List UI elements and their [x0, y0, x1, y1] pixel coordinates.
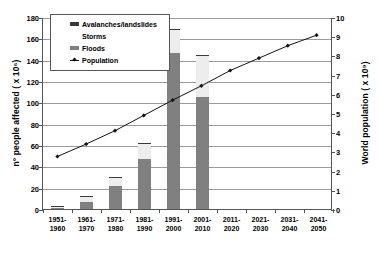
y-axis-right-tick-label: 5 [336, 110, 340, 119]
x-axis-tick-mark [43, 209, 44, 213]
x-axis-tick-label: 1991-2000 [165, 216, 183, 233]
x-axis-tick-label-line: 1961- [78, 216, 96, 225]
population-marker [84, 142, 88, 146]
x-axis-tick-label-line: 2050 [310, 225, 328, 234]
y-axis-left-tick-label: 120 [26, 78, 39, 87]
y-axis-left-tick-label: 80 [31, 120, 39, 129]
y-axis-left-tick-label: 0 [35, 206, 39, 215]
x-axis-tick-label-line: 2000 [165, 225, 183, 234]
y-axis-right-tick-mark [331, 56, 335, 57]
chart-container: n° people affected ( x 10⁶) World popula… [0, 0, 378, 253]
y-axis-right-title: World population ( x 10⁹) [360, 33, 370, 193]
x-axis-tick-label: 1971-1980 [107, 216, 125, 233]
x-axis-tick-mark [130, 209, 131, 213]
x-axis-tick-label: 2031-2040 [281, 216, 299, 233]
x-axis-tick-label-line: 1960 [49, 225, 67, 234]
x-axis-tick-label: 1981-1990 [136, 216, 154, 233]
x-axis-tick-mark [101, 209, 102, 213]
legend-swatch-icon [70, 22, 79, 26]
y-axis-left-tick-label: 100 [26, 99, 39, 108]
x-axis-tick-label-line: 2040 [281, 225, 299, 234]
x-axis-tick-label-line: 2001- [194, 216, 212, 225]
population-marker [257, 56, 261, 60]
y-axis-right-tick-mark [331, 18, 335, 19]
x-axis-tick-mark [159, 209, 160, 213]
y-axis-left-tick-label: 140 [26, 56, 39, 65]
y-axis-left-title: n° people affected ( x 10⁶) [11, 33, 21, 193]
legend-swatch-icon [70, 57, 79, 64]
x-axis-tick-label-line: 1971- [107, 216, 125, 225]
y-axis-right-tick-label: 6 [336, 90, 340, 99]
x-axis-tick-label: 1961-1970 [78, 216, 96, 233]
x-axis-tick-label-line: 1990 [136, 225, 154, 234]
y-axis-right-tick-label: 1 [336, 186, 340, 195]
y-axis-right-tick-label: 7 [336, 71, 340, 80]
x-axis-tick-mark [304, 209, 305, 213]
x-axis-tick-label-line: 1970 [78, 225, 96, 234]
population-marker [142, 113, 146, 117]
legend-swatch-icon [70, 46, 79, 50]
population-marker [171, 98, 175, 102]
x-axis-tick-mark [275, 209, 276, 213]
y-axis-right-tick-label: 3 [336, 148, 340, 157]
y-axis-right-tick-mark [331, 95, 335, 96]
x-axis-tick-label-line: 1951- [49, 216, 67, 225]
y-axis-right-tick-mark [331, 152, 335, 153]
x-axis-tick-label: 2011-2020 [223, 216, 241, 233]
y-axis-left-tick-label: 20 [31, 184, 39, 193]
x-axis-tick-label-line: 2010 [194, 225, 212, 234]
y-axis-right-tick-mark [331, 76, 335, 77]
legend-item[interactable]: Population [54, 54, 166, 66]
x-axis-tick-label-line: 2020 [223, 225, 241, 234]
legend-item[interactable]: Avalanches/landslides [54, 18, 166, 30]
y-axis-right-tick-label: 0 [336, 206, 340, 215]
population-marker [113, 129, 117, 133]
y-axis-right-tick-label: 8 [336, 52, 340, 61]
legend-item-label: Storms [82, 33, 106, 40]
x-axis-tick-label-line: 2041- [310, 216, 328, 225]
x-axis-tick-mark [188, 209, 189, 213]
population-marker [228, 68, 232, 72]
x-axis-tick-mark [72, 209, 73, 213]
legend-item-label: Avalanches/landslides [82, 21, 157, 28]
x-axis-tick-mark [217, 209, 218, 213]
x-axis-tick-label: 2001-2010 [194, 216, 212, 233]
y-axis-right-tick-label: 2 [336, 167, 340, 176]
y-axis-right-tick-mark [331, 114, 335, 115]
x-axis-tick-label-line: 1980 [107, 225, 125, 234]
x-axis-tick-label-line: 1981- [136, 216, 154, 225]
x-axis-tick-label: 2021-2030 [252, 216, 270, 233]
y-axis-right-tick-label: 9 [336, 33, 340, 42]
y-axis-left-tick-label: 40 [31, 163, 39, 172]
population-marker [286, 44, 290, 48]
chart-legend: Avalanches/landslidesStormsFloodsPopulat… [50, 14, 170, 71]
y-axis-right-tick-label: 10 [336, 14, 344, 23]
x-axis-tick-label-line: 2030 [252, 225, 270, 234]
x-axis-tick-mark [333, 209, 334, 213]
y-axis-right-tick-mark [331, 191, 335, 192]
y-axis-left-tick-label: 180 [26, 14, 39, 23]
y-axis-right-tick-mark [331, 37, 335, 38]
x-axis-tick-label-line: 1991- [165, 216, 183, 225]
legend-swatch-icon [70, 34, 79, 38]
y-axis-left-tick-label: 160 [26, 35, 39, 44]
x-axis-tick-label: 2041-2050 [310, 216, 328, 233]
legend-item-label: Population [82, 57, 118, 64]
x-axis-tick-label-line: 2011- [223, 216, 241, 225]
y-axis-right-tick-mark [331, 172, 335, 173]
y-axis-left-tick-label: 60 [31, 142, 39, 151]
x-axis-tick-mark [246, 209, 247, 213]
population-marker [55, 154, 59, 158]
y-axis-right-tick-label: 4 [336, 129, 340, 138]
legend-item[interactable]: Floods [54, 42, 166, 54]
y-axis-right-tick-mark [331, 133, 335, 134]
x-axis-tick-label-line: 2031- [281, 216, 299, 225]
legend-item[interactable]: Storms [54, 30, 166, 42]
x-axis-tick-label-line: 2021- [252, 216, 270, 225]
population-marker [315, 33, 319, 37]
x-axis-tick-label: 1951-1960 [49, 216, 67, 233]
legend-item-label: Floods [82, 45, 105, 52]
population-marker [199, 84, 203, 88]
